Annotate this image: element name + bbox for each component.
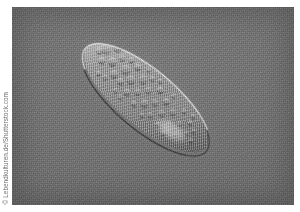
microscopy-photograph (12, 7, 294, 205)
attribution-text: © Lebendkulturen.de/Shutterstock.com (3, 92, 9, 204)
attribution-watermark: © Lebendkulturen.de/Shutterstock.com (0, 0, 12, 212)
field-vignette (12, 7, 294, 205)
